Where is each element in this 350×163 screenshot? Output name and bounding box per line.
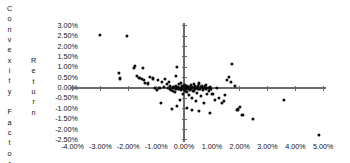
y-axis-tick-mark xyxy=(182,119,187,120)
x-axis-tick-label: -4.00% xyxy=(61,143,84,151)
data-point xyxy=(134,65,137,68)
x-axis-tick-mark xyxy=(72,86,73,91)
x-axis-tick-mark xyxy=(295,86,296,91)
y-axis-tick-mark xyxy=(182,36,187,37)
data-point xyxy=(191,108,194,111)
x-axis-tick-label: 3.00% xyxy=(257,143,277,151)
data-point xyxy=(230,81,233,84)
data-point xyxy=(186,106,189,109)
data-point xyxy=(118,72,121,75)
y-axis-tick-mark xyxy=(182,67,187,68)
data-point xyxy=(175,65,178,68)
y-axis-tick-mark xyxy=(182,98,187,99)
data-point xyxy=(194,99,197,102)
x-axis-tick-labels: -4.00%-3.00%-2.00%-1.00%0.00%1.00%2.00%3… xyxy=(0,143,350,155)
data-point xyxy=(175,105,178,108)
data-point xyxy=(217,96,220,99)
x-axis-tick-mark xyxy=(100,86,101,91)
data-point xyxy=(141,67,144,70)
data-point xyxy=(118,77,121,80)
data-point xyxy=(239,106,242,109)
data-point xyxy=(282,98,285,101)
y-axis-tick-mark xyxy=(182,46,187,47)
data-point xyxy=(191,96,194,99)
data-point xyxy=(151,77,154,80)
x-axis-tick-label: -3.00% xyxy=(89,143,112,151)
x-axis-tick-label: 4.00% xyxy=(285,143,305,151)
data-point xyxy=(146,82,149,85)
y-axis-tick-mark xyxy=(182,25,187,26)
data-point xyxy=(211,93,214,96)
x-axis-tick-mark xyxy=(267,86,268,91)
data-point xyxy=(213,98,216,101)
x-axis-tick-label: -1.00% xyxy=(145,143,168,151)
data-point xyxy=(174,74,177,77)
x-axis-tick-label: 0.00% xyxy=(174,143,194,151)
x-axis-tick-mark xyxy=(128,86,129,91)
data-point xyxy=(174,90,177,93)
x-axis-tick-label: 1.00% xyxy=(202,143,222,151)
data-point xyxy=(196,91,199,94)
scatter-chart-figure: Convexity Factor Return 3.00%2.50%2.00%1… xyxy=(0,0,350,163)
y-axis-tick-mark xyxy=(182,129,187,130)
y-axis-tick-mark xyxy=(182,56,187,57)
x-axis-tick-mark xyxy=(239,86,240,91)
data-point xyxy=(198,110,201,113)
data-point xyxy=(125,35,128,38)
plot-area xyxy=(0,0,350,163)
data-point xyxy=(222,99,225,102)
data-point xyxy=(252,117,255,120)
data-point xyxy=(241,114,244,117)
y-axis-tick-mark xyxy=(182,139,187,140)
data-point xyxy=(228,76,231,79)
y-axis-tick-mark xyxy=(182,77,187,78)
data-point xyxy=(161,80,164,83)
data-point xyxy=(230,62,233,65)
x-axis-tick-mark xyxy=(323,86,324,91)
data-point xyxy=(163,77,166,80)
x-axis-tick-label: -2.00% xyxy=(117,143,140,151)
data-point xyxy=(157,79,160,82)
data-point xyxy=(167,80,170,83)
data-point xyxy=(160,101,163,104)
data-point xyxy=(318,134,321,137)
data-point xyxy=(98,34,101,37)
data-point xyxy=(171,108,174,111)
data-point xyxy=(203,101,206,104)
data-point xyxy=(200,95,203,98)
data-point xyxy=(178,98,181,101)
x-axis-tick-label: 5.00% xyxy=(313,143,333,151)
x-axis-tick-label: 2.00% xyxy=(229,143,249,151)
data-point xyxy=(208,112,211,115)
data-point xyxy=(224,94,227,97)
